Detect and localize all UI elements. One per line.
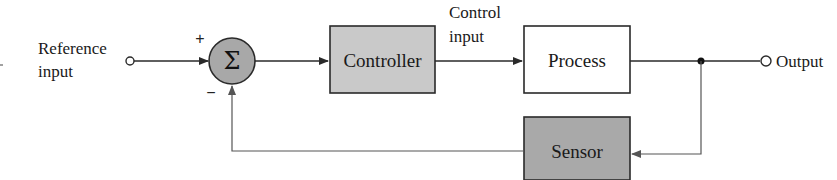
reference-input-label-line1: Reference	[38, 39, 107, 58]
plus-sign: +	[195, 30, 204, 47]
process-label: Process	[548, 50, 606, 71]
output-label: Output	[776, 52, 824, 71]
sensor-block: Sensor	[524, 117, 630, 180]
controller-label: Controller	[343, 50, 422, 71]
sigma-symbol: Σ	[224, 47, 241, 75]
control-input-label-line1: Control	[449, 3, 501, 22]
process-block: Process	[524, 26, 630, 93]
sensor-label: Sensor	[551, 141, 603, 162]
summing-junction: Σ	[209, 38, 255, 84]
minus-sign: −	[206, 84, 215, 101]
control-input-label-line2: input	[449, 27, 484, 46]
output-terminal	[761, 56, 771, 66]
reference-input-terminal	[126, 57, 134, 65]
control-system-diagram: Reference input Σ + − Controller Control…	[0, 0, 837, 180]
output-to-sensor-arrow	[632, 61, 701, 154]
sensor-to-sum-feedback-arrow	[232, 86, 524, 151]
controller-block: Controller	[330, 26, 435, 93]
reference-input-label-line2: input	[38, 62, 73, 81]
